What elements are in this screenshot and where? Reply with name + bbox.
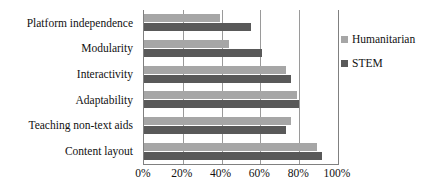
plot-area	[143, 10, 339, 165]
category-label: Content layout	[0, 138, 138, 164]
value-tick-label: 20%	[171, 167, 192, 179]
category-label: Platform independence	[0, 10, 138, 36]
category-axis: Platform independence Modularity Interac…	[0, 10, 138, 164]
bar-humanitarian	[144, 117, 291, 125]
bar-stem	[144, 75, 291, 83]
category-label: Adaptability	[0, 87, 138, 113]
bar-group	[144, 10, 338, 36]
bar-chart: Platform independence Modularity Interac…	[0, 0, 431, 191]
bar-stem	[144, 152, 322, 160]
value-tick-label: 80%	[288, 167, 309, 179]
value-axis: 0%20%40%60%80%100%	[143, 167, 338, 185]
category-label: Modularity	[0, 36, 138, 62]
bar-humanitarian	[144, 66, 286, 74]
legend-swatch-icon	[341, 60, 348, 67]
bar-group	[144, 87, 338, 113]
bar-group	[144, 138, 338, 164]
bar-humanitarian	[144, 143, 317, 151]
bar-group	[144, 36, 338, 62]
bar-rows	[144, 10, 338, 164]
bar-humanitarian	[144, 91, 297, 99]
bar-stem	[144, 100, 299, 108]
legend-label: STEM	[352, 57, 383, 69]
bar-stem	[144, 126, 286, 134]
bar-group	[144, 61, 338, 87]
category-label: Teaching non-text aids	[0, 113, 138, 139]
bar-group	[144, 113, 338, 139]
value-tick-label: 100%	[324, 167, 351, 179]
legend-swatch-icon	[341, 36, 348, 43]
category-label: Interactivity	[0, 61, 138, 87]
bar-humanitarian	[144, 40, 229, 48]
value-tick-label: 40%	[210, 167, 231, 179]
value-tick-label: 60%	[249, 167, 270, 179]
legend-label: Humanitarian	[352, 33, 415, 45]
legend: Humanitarian STEM	[341, 33, 431, 81]
legend-item-stem: STEM	[341, 57, 431, 69]
bar-humanitarian	[144, 14, 220, 22]
legend-item-humanitarian: Humanitarian	[341, 33, 431, 45]
value-tick-label: 0%	[135, 167, 150, 179]
bar-stem	[144, 49, 262, 57]
bar-stem	[144, 23, 251, 31]
